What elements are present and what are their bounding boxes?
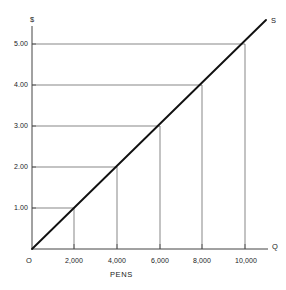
x-tick-label-5: 10,000 [224, 257, 268, 264]
x-tick-label-1: 2,000 [54, 257, 94, 264]
y-tick-label-5: 5.00 [4, 40, 28, 47]
chart-canvas [0, 0, 286, 290]
origin-label: O [26, 257, 32, 265]
y-tick-label-2: 2.00 [4, 163, 28, 170]
y-tick-label-1: 1.00 [4, 204, 28, 211]
y-axis-ticks [32, 44, 36, 208]
x-tick-label-3: 6,000 [140, 257, 180, 264]
supply-curve-chart: $ 1.00 2.00 3.00 4.00 5.00 2,000 4,000 6… [0, 0, 286, 290]
y-tick-label-4: 4.00 [4, 81, 28, 88]
supply-curve-label: S [271, 17, 276, 25]
x-axis-ticks [74, 244, 245, 249]
x-axis-symbol: Q [272, 243, 278, 251]
x-tick-label-2: 4,000 [97, 257, 137, 264]
x-tick-label-4: 8,000 [182, 257, 222, 264]
guide-lines-horizontal [32, 44, 245, 208]
y-axis-symbol: $ [30, 16, 34, 24]
y-tick-label-3: 3.00 [4, 122, 28, 129]
supply-curve-line [32, 20, 266, 249]
guide-lines-vertical [74, 44, 245, 249]
x-axis-title: PENS [110, 271, 133, 279]
